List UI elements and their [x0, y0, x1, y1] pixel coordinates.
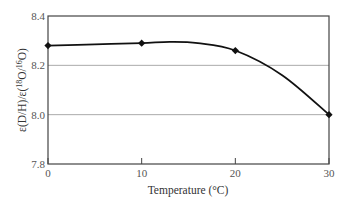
y-label-prefix: ε(D/H)/ε( — [16, 88, 29, 132]
y-label-sup-16: 16 — [15, 60, 24, 68]
diamond-marker — [232, 47, 239, 54]
y-axis-ticks: 7.88.08.28.4 — [31, 10, 45, 170]
x-tick-label: 30 — [324, 167, 336, 179]
y-tick-label: 7.8 — [31, 158, 45, 170]
y-label-suffix: O) — [16, 48, 29, 60]
chart: 0102030 7.88.08.28.4 Temperature (°C) ε(… — [0, 0, 346, 205]
data-markers — [44, 40, 332, 119]
x-tick-label: 0 — [45, 167, 51, 179]
x-tick-label: 20 — [230, 167, 242, 179]
diamond-marker — [138, 40, 145, 47]
plot-frame — [48, 16, 329, 164]
y-tick-label: 8.0 — [31, 109, 45, 121]
y-axis-label: ε(D/H)/ε(18O/16O) — [15, 48, 29, 132]
gridlines — [48, 65, 329, 114]
y-tick-label: 8.4 — [31, 10, 45, 22]
x-axis-label: Temperature (°C) — [148, 184, 229, 197]
diamond-marker — [44, 42, 51, 49]
y-label-sup-18: 18 — [15, 80, 24, 88]
y-label-mid: O/ — [16, 67, 28, 79]
data-curve — [48, 42, 329, 115]
x-tick-label: 10 — [136, 167, 148, 179]
x-axis-ticks: 0102030 — [45, 158, 335, 179]
y-tick-label: 8.2 — [31, 59, 45, 71]
